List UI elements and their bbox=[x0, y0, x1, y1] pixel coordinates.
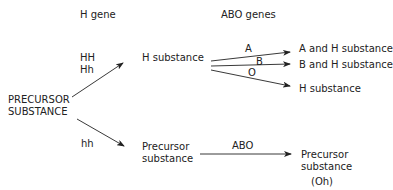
product-b-and-h: B and H substance bbox=[299, 59, 393, 71]
product-a-and-h: A and H substance bbox=[299, 43, 393, 55]
precursor-node-line1: Precursor bbox=[142, 141, 189, 153]
label-o: O bbox=[248, 67, 256, 79]
header-h-gene: H gene bbox=[80, 9, 116, 21]
header-abo-genes: ABO genes bbox=[221, 9, 276, 21]
arrow-h-to-b bbox=[211, 64, 290, 66]
label-abo: ABO bbox=[232, 140, 253, 152]
precursor-node-line2: substance bbox=[142, 153, 193, 165]
source-line1: PRECURSOR bbox=[8, 94, 70, 106]
source-line2: SUBSTANCE bbox=[8, 106, 68, 118]
product-precursor-line2: substance bbox=[301, 161, 352, 173]
product-h-only: H substance bbox=[299, 83, 361, 95]
product-oh: (Oh) bbox=[311, 176, 333, 188]
label-b: B bbox=[256, 56, 263, 68]
genotype-Hh: Hh bbox=[80, 64, 94, 76]
product-precursor-line1: Precursor bbox=[301, 149, 348, 161]
label-a: A bbox=[245, 43, 252, 55]
h-substance-node: H substance bbox=[142, 52, 204, 64]
genotype-hh: hh bbox=[81, 138, 94, 150]
genotype-HH: HH bbox=[80, 52, 95, 64]
